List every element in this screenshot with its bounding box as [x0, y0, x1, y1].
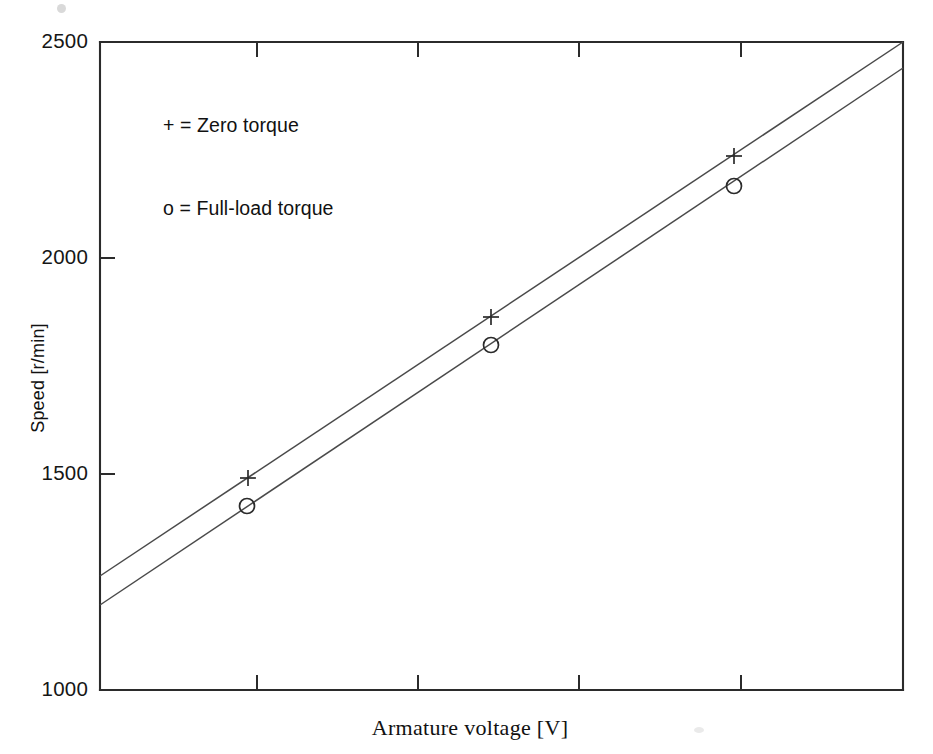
scan-artifact-speck	[57, 4, 66, 13]
y-axis-title: Speed [r/min]	[28, 323, 48, 433]
x-axis-title: Armature voltage [V]	[372, 715, 569, 740]
y-tick-label-1000: 1000	[42, 677, 88, 700]
legend-item-full-load-torque: o = Full-load torque	[163, 197, 334, 219]
y-tick-label-2000: 2000	[42, 245, 88, 268]
y-tick-label-1500: 1500	[42, 461, 88, 484]
speed-vs-armature-voltage-chart: 2500 2000 1500 1000	[0, 0, 933, 754]
scan-artifact-speck	[694, 727, 704, 733]
chart-background	[0, 0, 933, 754]
legend-item-zero-torque: + = Zero torque	[163, 114, 299, 136]
chart-figure: 2500 2000 1500 1000	[0, 0, 933, 754]
y-tick-label-2500: 2500	[42, 29, 88, 52]
